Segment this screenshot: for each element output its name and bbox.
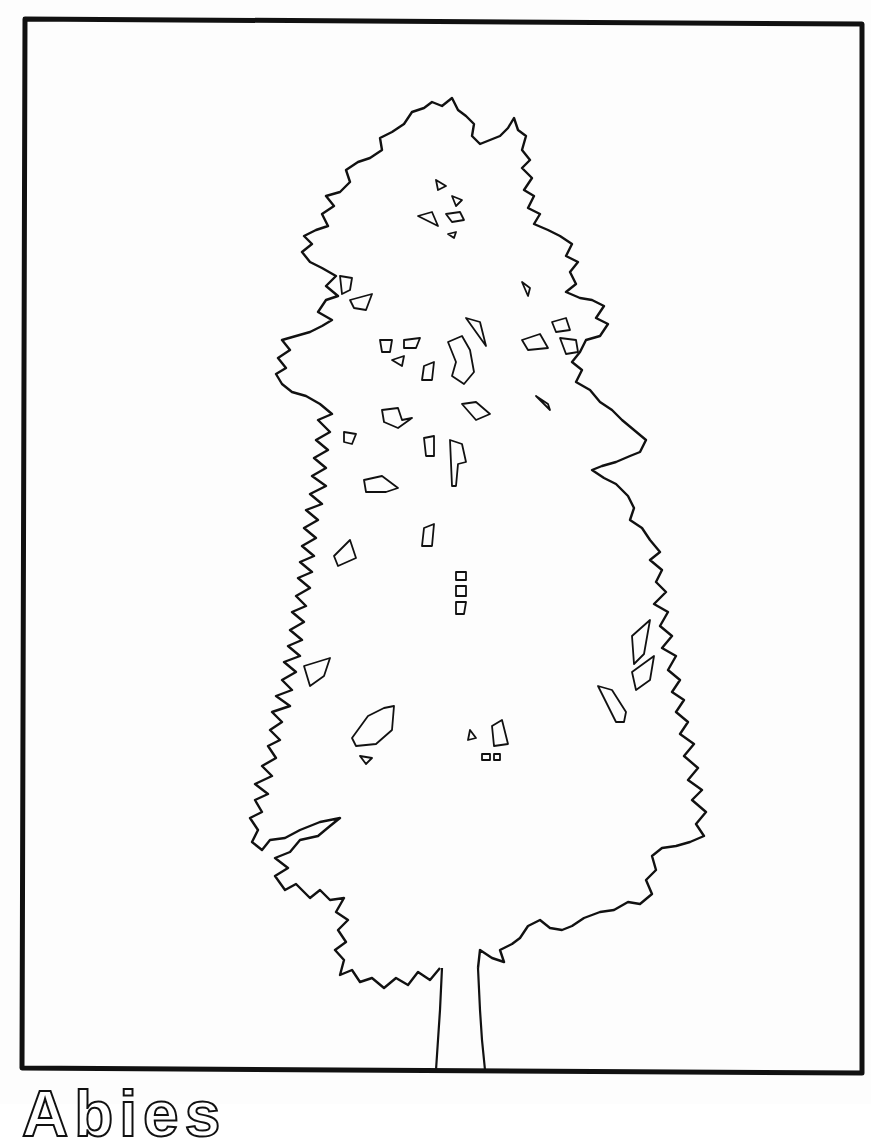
picture-frame <box>22 19 862 1073</box>
tree-trunk-right <box>478 968 485 1070</box>
tree-crown-outline <box>250 98 706 988</box>
species-caption: Abies <box>22 1082 226 1142</box>
foliage-gaps <box>304 180 654 764</box>
tree-trunk-left <box>436 968 442 1070</box>
